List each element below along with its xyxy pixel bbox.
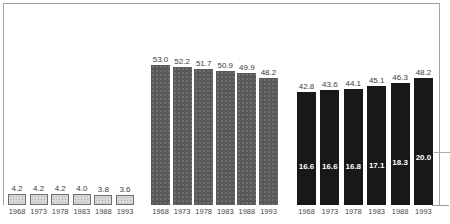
bar-cell: 4.0 bbox=[73, 0, 91, 205]
bar bbox=[73, 194, 91, 205]
bar-value-label: 46.3 bbox=[392, 73, 408, 82]
bar-cell: 49.9 bbox=[237, 0, 256, 205]
year-label: 1978 bbox=[344, 207, 363, 216]
bar bbox=[173, 67, 192, 205]
bar-inner-label: 16.6 bbox=[318, 161, 341, 172]
bar: 16.6 bbox=[320, 90, 339, 205]
year-label: 1973 bbox=[320, 207, 339, 216]
bar: 20.0 bbox=[414, 78, 433, 205]
year-label: 1988 bbox=[94, 207, 112, 216]
bar-value-label: 4.0 bbox=[76, 184, 87, 193]
bar bbox=[194, 69, 213, 205]
year-label: 1993 bbox=[259, 207, 278, 216]
bar-inner-label: 18.3 bbox=[389, 157, 412, 168]
right-tick-line-20 bbox=[434, 152, 450, 153]
bar-group-black-bars: 42.816.643.616.644.116.845.117.146.318.3… bbox=[297, 0, 433, 205]
bar-value-label: 43.6 bbox=[322, 80, 338, 89]
bar-value-label: 4.2 bbox=[55, 184, 66, 193]
bar bbox=[30, 194, 48, 205]
bar bbox=[216, 71, 235, 205]
bar-value-label: 53.0 bbox=[153, 55, 169, 64]
year-label: 1973 bbox=[30, 207, 48, 216]
bar-cell: 51.7 bbox=[194, 0, 213, 205]
year-label: 1968 bbox=[8, 207, 26, 216]
bar bbox=[237, 73, 256, 205]
bar-value-label: 3.6 bbox=[119, 185, 130, 194]
year-label: 1968 bbox=[151, 207, 170, 216]
bar-cell: 4.2 bbox=[51, 0, 69, 205]
year-label: 1968 bbox=[297, 207, 316, 216]
bar-value-label: 52.2 bbox=[174, 57, 190, 66]
year-label: 1978 bbox=[194, 207, 213, 216]
year-label: 1988 bbox=[391, 207, 410, 216]
bar bbox=[259, 78, 278, 205]
bar-value-label: 42.8 bbox=[299, 82, 315, 91]
bar-chart-figure: 4.24.24.24.03.83.61968197319781983198819… bbox=[0, 0, 450, 224]
bar-cell: 45.117.1 bbox=[367, 0, 386, 205]
year-label: 1993 bbox=[414, 207, 433, 216]
bar-value-label: 51.7 bbox=[196, 59, 212, 68]
bar-group-gray-bars: 53.052.251.750.949.948.2 bbox=[151, 0, 278, 205]
bar-value-label: 4.2 bbox=[33, 184, 44, 193]
bar: 16.8 bbox=[344, 89, 363, 205]
bar-cell: 50.9 bbox=[216, 0, 235, 205]
bar-value-label: 3.8 bbox=[98, 185, 109, 194]
bar-cell: 53.0 bbox=[151, 0, 170, 205]
bar-inner-label: 20.0 bbox=[412, 152, 435, 163]
bar-value-label: 4.2 bbox=[11, 184, 22, 193]
bar-value-label: 49.9 bbox=[239, 63, 255, 72]
year-label: 1988 bbox=[237, 207, 256, 216]
baseline-right-extension bbox=[432, 205, 449, 206]
year-label: 1973 bbox=[173, 207, 192, 216]
bar-cell: 44.116.8 bbox=[344, 0, 363, 205]
year-label-row: 196819731978198319881993 bbox=[8, 207, 134, 217]
bar bbox=[51, 194, 69, 205]
bar-value-label: 48.2 bbox=[416, 68, 432, 77]
bar: 17.1 bbox=[367, 86, 386, 205]
bar-value-label: 50.9 bbox=[217, 61, 233, 70]
bar-value-label: 45.1 bbox=[369, 76, 385, 85]
bar bbox=[151, 65, 170, 205]
bar-cell: 48.2 bbox=[259, 0, 278, 205]
bar-cell: 3.6 bbox=[116, 0, 134, 205]
bar-cell: 42.816.6 bbox=[297, 0, 316, 205]
year-label: 1983 bbox=[73, 207, 91, 216]
bar bbox=[94, 195, 112, 205]
year-label-row: 196819731978198319881993 bbox=[297, 207, 433, 217]
bar-value-label: 44.1 bbox=[345, 79, 361, 88]
bar: 18.3 bbox=[391, 83, 410, 205]
year-label: 1983 bbox=[367, 207, 386, 216]
year-label: 1978 bbox=[51, 207, 69, 216]
bar-inner-label: 16.6 bbox=[295, 161, 318, 172]
year-label: 1983 bbox=[216, 207, 235, 216]
bar-cell: 52.2 bbox=[173, 0, 192, 205]
bar-cell: 3.8 bbox=[94, 0, 112, 205]
bar-cell: 48.220.0 bbox=[414, 0, 433, 205]
bar bbox=[8, 194, 26, 205]
bar bbox=[116, 195, 134, 205]
bar-cell: 4.2 bbox=[8, 0, 26, 205]
bar-group-light-stippled-bars: 4.24.24.24.03.83.6 bbox=[8, 0, 134, 205]
bar-cell: 43.616.6 bbox=[320, 0, 339, 205]
bar: 16.6 bbox=[297, 92, 316, 205]
year-label-row: 196819731978198319881993 bbox=[151, 207, 278, 217]
bar-inner-label: 16.8 bbox=[342, 161, 365, 172]
bar-cell: 46.318.3 bbox=[391, 0, 410, 205]
bar-cell: 4.2 bbox=[30, 0, 48, 205]
year-label: 1993 bbox=[116, 207, 134, 216]
bar-inner-label: 17.1 bbox=[365, 160, 388, 171]
bar-value-label: 48.2 bbox=[261, 68, 277, 77]
